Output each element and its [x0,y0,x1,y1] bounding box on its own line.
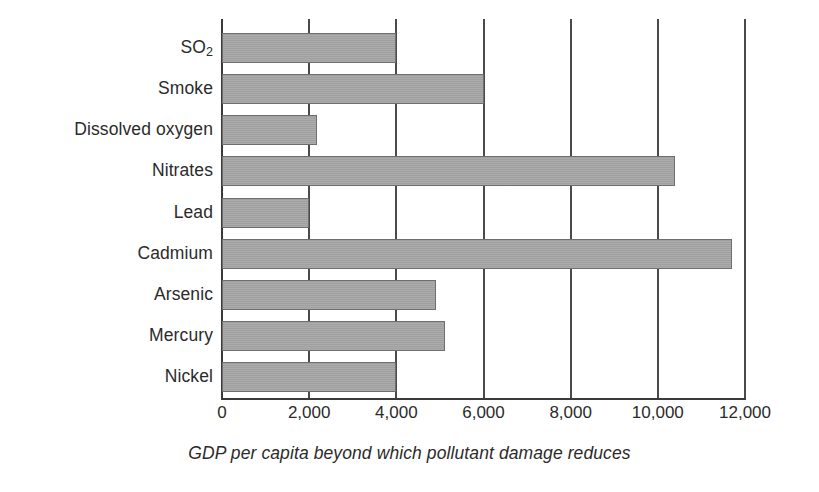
x-tick-label: 4,000 [375,404,418,421]
x-axis-tick-labels: 02,0004,0006,0008,00010,00012,000 [222,404,745,428]
bar-row [222,115,745,145]
category-label: Lead [0,204,213,222]
bar [222,321,445,351]
x-tick-label: 10,000 [632,404,684,421]
bar-row [222,280,745,310]
category-axis-labels: SO2SmokeDissolved oxygenNitratesLeadCadm… [0,27,213,398]
bar [222,74,484,104]
bar-row [222,198,745,228]
bar [222,239,732,269]
category-label: Nitrates [0,162,213,180]
bar [222,156,675,186]
plot-area [222,27,745,398]
x-axis-line [221,398,746,400]
x-tick-label: 0 [217,404,226,421]
category-label: Mercury [0,327,213,345]
bar [222,362,396,392]
x-tick-label: 2,000 [288,404,331,421]
category-label: Dissolved oxygen [0,121,213,139]
x-tick-label: 12,000 [719,404,771,421]
category-label: SO2 [0,39,213,57]
bar [222,198,309,228]
bar [222,33,396,63]
x-tick-label: 6,000 [462,404,505,421]
bar-chart-figure: SO2SmokeDissolved oxygenNitratesLeadCadm… [0,0,819,492]
bar-row [222,239,745,269]
category-label: Nickel [0,368,213,386]
x-axis-title: GDP per capita beyond which pollutant da… [0,445,819,463]
category-label: Smoke [0,80,213,98]
bar-series [222,27,745,398]
bar [222,280,436,310]
category-label: Cadmium [0,245,213,263]
bar-row [222,156,745,186]
category-label: Arsenic [0,286,213,304]
x-tick-label: 8,000 [549,404,592,421]
bar-row [222,33,745,63]
bar-row [222,362,745,392]
bar [222,115,317,145]
bar-row [222,321,745,351]
bar-row [222,74,745,104]
